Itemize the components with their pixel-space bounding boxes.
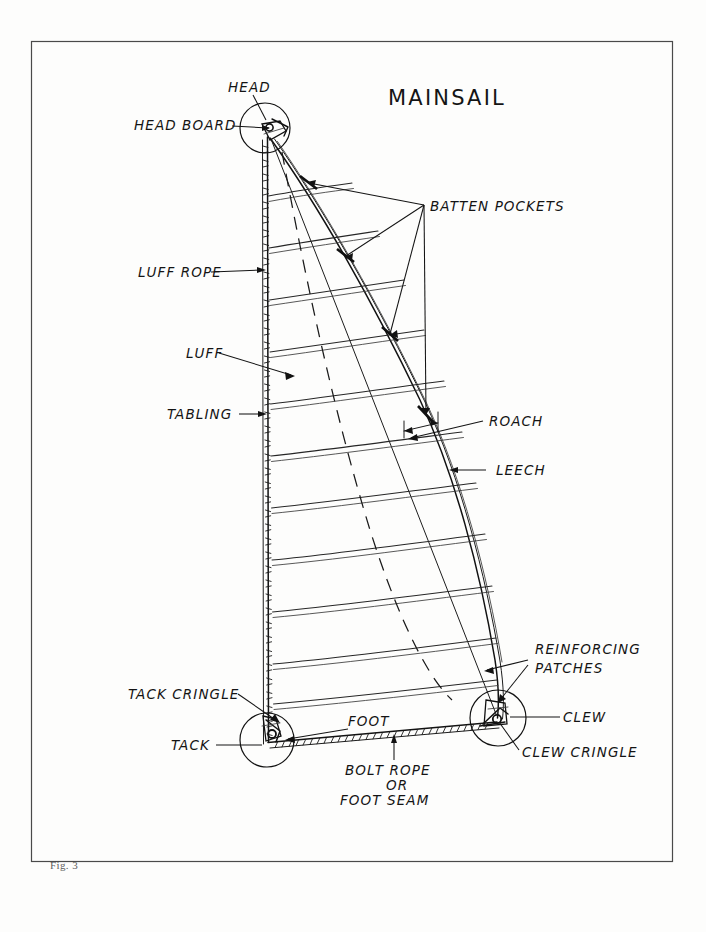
leader-roach: [411, 421, 483, 438]
label-luff: LUFF: [186, 345, 223, 361]
label-foot: FOOT: [348, 713, 390, 729]
figure-page: MAINSAIL HEAD HEAD BOARD BATTEN POCKETS …: [0, 0, 706, 932]
arrowhead-luff: [285, 372, 295, 380]
arrowhead-bolt-rope: [391, 734, 397, 743]
label-tack: TACK: [171, 737, 210, 753]
mainsail-diagram: MAINSAIL HEAD HEAD BOARD BATTEN POCKETS …: [0, 0, 706, 932]
roach-bracket: [404, 412, 438, 438]
figure-caption: Fig. 3: [50, 859, 78, 871]
label-clew-cringle: CLEW CRINGLE: [522, 744, 638, 760]
leech-chord-line: [271, 139, 496, 714]
leader-reinforcing-patches: [484, 660, 528, 703]
label-reinforcing-patches-1: REINFORCING: [535, 641, 641, 657]
diagram-title: MAINSAIL: [388, 86, 506, 110]
arrowhead-roach: [408, 434, 418, 441]
label-bolt-rope-3: FOOT SEAM: [340, 792, 429, 808]
label-head-board: HEAD BOARD: [134, 117, 237, 133]
arrowhead-foot: [285, 736, 295, 743]
label-head: HEAD: [228, 79, 271, 95]
label-bolt-rope-2: OR: [386, 777, 408, 793]
label-tack-cringle: TACK CRINGLE: [128, 686, 239, 702]
label-reinforcing-patches-2: PATCHES: [535, 660, 603, 676]
label-leech: LEECH: [496, 462, 546, 478]
label-bolt-rope-1: BOLT ROPE: [345, 762, 431, 778]
label-luff-rope: LUFF ROPE: [138, 264, 222, 280]
label-tabling: TABLING: [167, 406, 232, 422]
label-batten-pockets: BATTEN POCKETS: [430, 198, 565, 214]
leader-head: [253, 95, 266, 120]
label-roach: ROACH: [489, 413, 543, 429]
label-clew: CLEW: [563, 709, 606, 725]
